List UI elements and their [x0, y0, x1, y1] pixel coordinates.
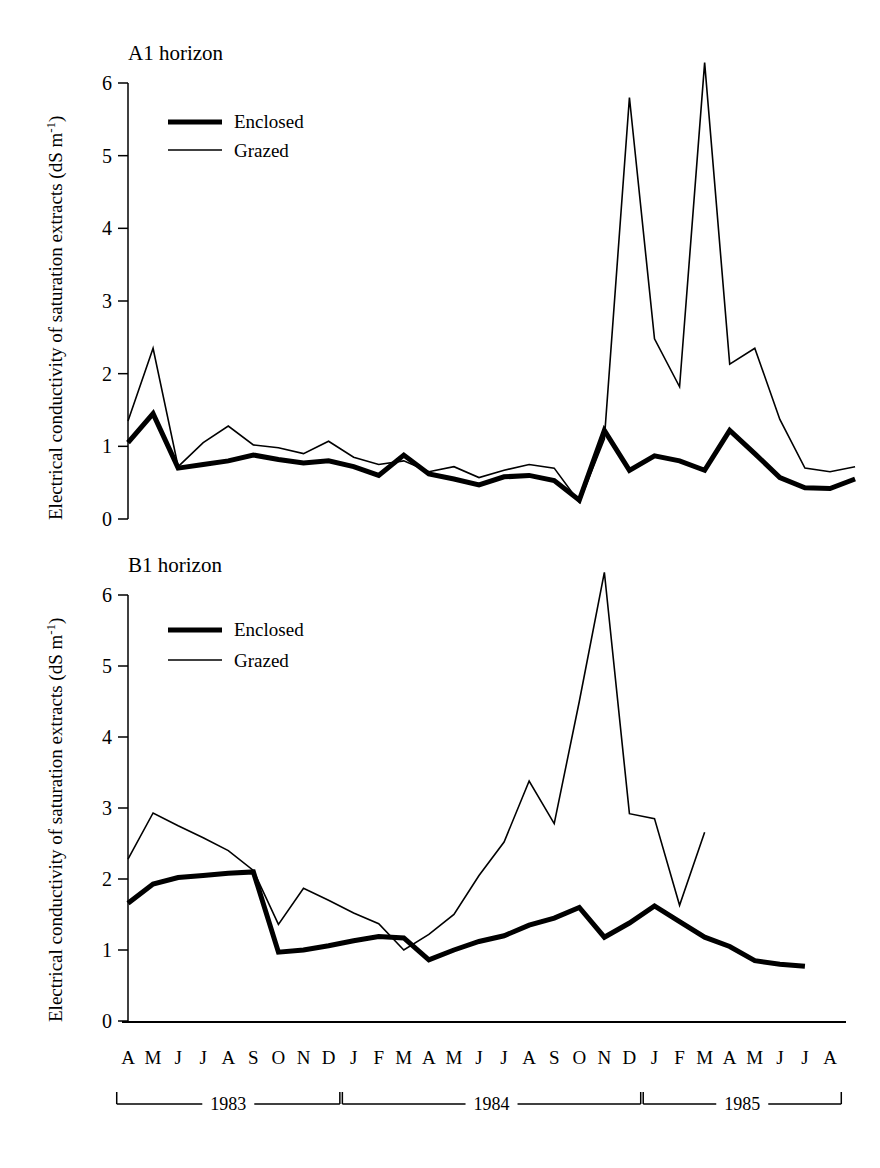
a1-legend-enclosed-label: Enclosed: [234, 111, 304, 132]
a1-legend-grazed-label: Grazed: [234, 140, 289, 161]
panel-b1: B1 horizon 0123456 Enclosed Grazed: [102, 553, 805, 1032]
x-axis-month-label: J: [801, 1047, 808, 1068]
x-axis-month-label: D: [322, 1047, 336, 1068]
b1-y-axis-title: Electrical conductivity of saturation ex…: [43, 618, 67, 1022]
a1-y-axis-title: Electrical conductivity of saturation ex…: [43, 116, 67, 520]
b1-y-tick-label-1: 1: [102, 939, 112, 961]
svg-text:Electrical conductivity of sat: Electrical conductivity of saturation ex…: [43, 618, 67, 1022]
x-axis-month-label: A: [121, 1047, 135, 1068]
x-axis-month-label: D: [623, 1047, 637, 1068]
b1-y-axis-title-sup: -1: [43, 624, 58, 635]
x-axis-month-label: M: [746, 1047, 763, 1068]
x-axis-month-label: A: [823, 1047, 837, 1068]
x-axis-month-label: A: [422, 1047, 436, 1068]
x-axis-month-label: S: [248, 1047, 259, 1068]
panel-a1-title: A1 horizon: [128, 41, 224, 65]
a1-y-tick-label-0: 0: [102, 508, 112, 530]
b1-y-tick-label-3: 3: [102, 797, 112, 819]
year-bracket-label: 1983: [210, 1094, 246, 1114]
x-axis-month-label: M: [395, 1047, 412, 1068]
x-axis-month-label: M: [445, 1047, 462, 1068]
b1-y-ticks: 0123456: [102, 584, 128, 1032]
x-axis-month-label: O: [272, 1047, 286, 1068]
x-axis-month-label: J: [350, 1047, 357, 1068]
x-axis-month-label: J: [776, 1047, 783, 1068]
a1-y-tick-label-5: 5: [102, 145, 112, 167]
x-axis-month-label: S: [549, 1047, 560, 1068]
a1-y-tick-label-2: 2: [102, 363, 112, 385]
a1-y-axis-title-sup: -1: [43, 122, 58, 133]
a1-y-axis-title-text: Electrical conductivity of saturation ex…: [45, 133, 67, 520]
year-bracket-label: 1984: [474, 1094, 510, 1114]
x-axis-month-label: A: [221, 1047, 235, 1068]
b1-y-tick-label-5: 5: [102, 655, 112, 677]
b1-legend-enclosed-label: Enclosed: [234, 619, 304, 640]
a1-legend: Enclosed Grazed: [168, 111, 304, 161]
a1-y-axis-title-tail: ): [45, 116, 67, 122]
a1-series-enclosed-line: [128, 414, 855, 500]
x-axis-month-label: F: [373, 1047, 384, 1068]
b1-y-tick-label-0: 0: [102, 1010, 112, 1032]
x-axis-month-label: J: [200, 1047, 207, 1068]
x-axis-month-label: O: [572, 1047, 586, 1068]
year-bracket-label: 1985: [724, 1094, 760, 1114]
x-axis-month-labels: AMJJASONDJFMAMJJASONDJFMAMJJA: [121, 1047, 837, 1068]
svg-text:Electrical conductivity of sat: Electrical conductivity of saturation ex…: [43, 116, 67, 520]
x-axis-month-label: J: [475, 1047, 482, 1068]
b1-y-tick-label-2: 2: [102, 868, 112, 890]
x-axis: AMJJASONDJFMAMJJASONDJFMAMJJA 1983198419…: [117, 1022, 846, 1114]
figure-container: Electrical conductivity of saturation ex…: [0, 0, 880, 1168]
panel-a1: A1 horizon 0123456 Enclosed Grazed: [102, 41, 855, 530]
x-axis-month-label: N: [297, 1047, 311, 1068]
x-axis-month-label: J: [500, 1047, 507, 1068]
x-axis-month-label: M: [145, 1047, 162, 1068]
b1-y-tick-label-6: 6: [102, 584, 112, 606]
b1-y-axis-title-text: Electrical conductivity of saturation ex…: [45, 635, 67, 1022]
chart-figure-svg: Electrical conductivity of saturation ex…: [0, 0, 880, 1168]
b1-legend-grazed-label: Grazed: [234, 650, 289, 671]
x-axis-year-brackets: 198319841985: [117, 1092, 842, 1114]
a1-y-tick-label-4: 4: [102, 217, 112, 239]
x-axis-month-label: M: [696, 1047, 713, 1068]
a1-y-ticks: 0123456: [102, 72, 128, 530]
x-axis-month-label: F: [674, 1047, 685, 1068]
b1-series-enclosed-line: [128, 872, 805, 966]
x-axis-month-label: J: [651, 1047, 658, 1068]
panel-b1-title: B1 horizon: [128, 553, 222, 577]
x-axis-month-label: N: [597, 1047, 611, 1068]
a1-y-tick-label-6: 6: [102, 72, 112, 94]
b1-y-axis-title-tail: ): [45, 618, 67, 624]
x-axis-month-label: A: [723, 1047, 737, 1068]
a1-y-tick-label-3: 3: [102, 290, 112, 312]
x-axis-month-label: A: [522, 1047, 536, 1068]
b1-y-tick-label-4: 4: [102, 726, 112, 748]
a1-y-tick-label-1: 1: [102, 435, 112, 457]
x-axis-month-label: J: [174, 1047, 181, 1068]
b1-legend: Enclosed Grazed: [168, 619, 304, 671]
